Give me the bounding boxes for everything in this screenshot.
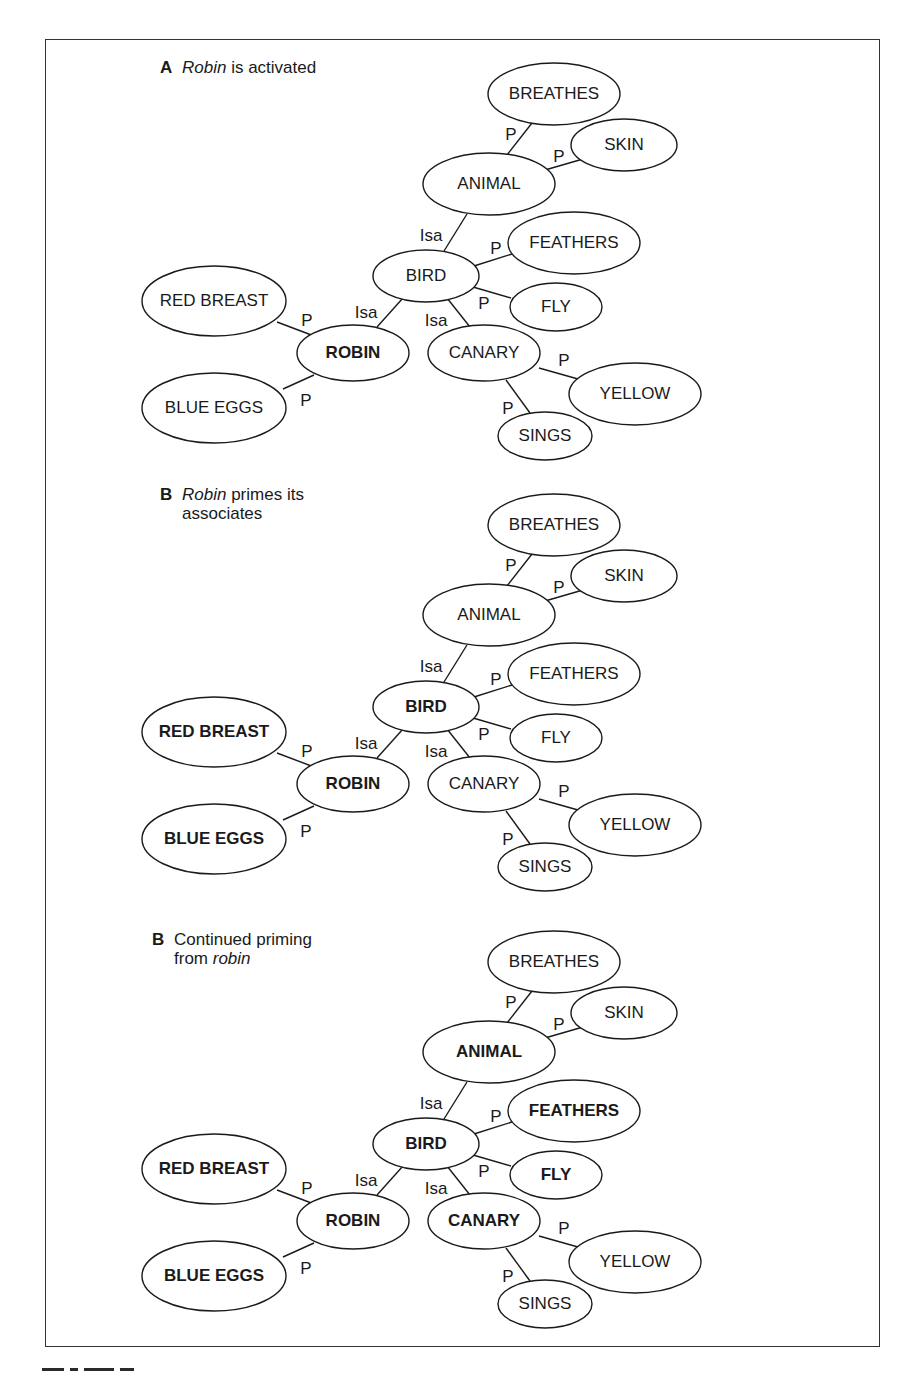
node-breathes: BREATHES bbox=[488, 931, 620, 993]
node-canary: CANARY bbox=[428, 1193, 540, 1249]
edge-label-isa: Isa bbox=[425, 742, 448, 761]
node-bird: BIRD bbox=[373, 250, 479, 302]
panel-title-text: primes its bbox=[226, 485, 303, 504]
node-label: BREATHES bbox=[509, 515, 599, 534]
edge-label-isa: Isa bbox=[355, 303, 378, 322]
edge-bird-canary bbox=[447, 729, 470, 758]
edge-label-property: P bbox=[301, 311, 312, 330]
node-label: FEATHERS bbox=[529, 233, 618, 252]
edge-label-property: P bbox=[301, 1179, 312, 1198]
node-label: ANIMAL bbox=[457, 605, 520, 624]
node-robin: ROBIN bbox=[297, 325, 409, 381]
edge-label-property: P bbox=[301, 742, 312, 761]
node-label: SINGS bbox=[519, 1294, 572, 1313]
edge-robin-bird bbox=[377, 729, 403, 758]
node-canary: CANARY bbox=[428, 756, 540, 812]
edge-label-property: P bbox=[478, 294, 489, 313]
node-red-breast: RED BREAST bbox=[142, 1134, 286, 1204]
node-label: BIRD bbox=[405, 697, 447, 716]
node-label: ANIMAL bbox=[457, 174, 520, 193]
node-label: SKIN bbox=[604, 1003, 644, 1022]
edge-label-property: P bbox=[490, 239, 501, 258]
node-animal: ANIMAL bbox=[423, 1021, 555, 1083]
edge-label-property: P bbox=[505, 556, 516, 575]
node-label: ROBIN bbox=[326, 343, 381, 362]
node-skin: SKIN bbox=[571, 119, 677, 171]
edge-label-property: P bbox=[478, 725, 489, 744]
node-label: YELLOW bbox=[600, 384, 671, 403]
node-label: RED BREAST bbox=[160, 291, 269, 310]
node-breathes: BREATHES bbox=[488, 494, 620, 556]
node-fly: FLY bbox=[510, 283, 602, 331]
node-yellow: YELLOW bbox=[569, 363, 701, 425]
edge-label-property: P bbox=[478, 1162, 489, 1181]
node-label: FLY bbox=[541, 728, 571, 747]
edge-label-property: P bbox=[558, 1219, 569, 1238]
edge-label-property: P bbox=[502, 399, 513, 418]
edge-bird-animal bbox=[444, 214, 467, 251]
node-label: RED BREAST bbox=[159, 1159, 270, 1178]
edge-robin-blue-eggs bbox=[283, 375, 314, 389]
edge-label-isa: Isa bbox=[420, 1094, 443, 1113]
edge-label-property: P bbox=[502, 1267, 513, 1286]
node-blue-eggs: BLUE EGGS bbox=[142, 1241, 286, 1311]
node-red-breast: RED BREAST bbox=[142, 697, 286, 767]
node-label: RED BREAST bbox=[159, 722, 270, 741]
edge-label-property: P bbox=[553, 1015, 564, 1034]
edge-label-property: P bbox=[502, 830, 513, 849]
node-robin: ROBIN bbox=[297, 756, 409, 812]
node-label: ANIMAL bbox=[456, 1042, 522, 1061]
panel-b1: PPIsaPPIsaIsaPPPPBREATHESSKINANIMALFEATH… bbox=[142, 494, 701, 891]
panel-letter: B bbox=[160, 485, 182, 504]
edge-bird-canary bbox=[447, 298, 470, 327]
edge-label-property: P bbox=[300, 822, 311, 841]
edge-label-isa: Isa bbox=[425, 1179, 448, 1198]
edge-robin-blue-eggs bbox=[283, 806, 314, 820]
node-sings: SINGS bbox=[498, 1280, 592, 1328]
node-label: YELLOW bbox=[600, 1252, 671, 1271]
panel-title-text: is activated bbox=[226, 58, 316, 77]
node-bird: BIRD bbox=[373, 1118, 479, 1170]
panel-letter: A bbox=[160, 58, 182, 77]
edge-label-property: P bbox=[553, 578, 564, 597]
edge-robin-bird bbox=[377, 1166, 403, 1195]
node-animal: ANIMAL bbox=[423, 153, 555, 215]
edge-label-property: P bbox=[505, 993, 516, 1012]
edge-bird-canary bbox=[447, 1166, 470, 1195]
edge-label-property: P bbox=[505, 125, 516, 144]
edge-label-isa: Isa bbox=[420, 657, 443, 676]
node-label: FEATHERS bbox=[529, 664, 618, 683]
node-blue-eggs: BLUE EGGS bbox=[142, 373, 286, 443]
node-label: BLUE EGGS bbox=[164, 1266, 264, 1285]
node-yellow: YELLOW bbox=[569, 794, 701, 856]
node-label: BREATHES bbox=[509, 952, 599, 971]
node-label: FLY bbox=[541, 1165, 572, 1184]
edge-label-isa: Isa bbox=[355, 734, 378, 753]
node-skin: SKIN bbox=[571, 550, 677, 602]
panel-title-text: Continued priming bbox=[174, 930, 312, 949]
edge-bird-animal bbox=[444, 645, 467, 682]
panel-title-text: associates bbox=[182, 504, 262, 523]
panel-title-text: robin bbox=[213, 949, 251, 968]
node-label: SINGS bbox=[519, 857, 572, 876]
edge-label-property: P bbox=[553, 147, 564, 166]
node-blue-eggs: BLUE EGGS bbox=[142, 804, 286, 874]
node-label: BLUE EGGS bbox=[165, 398, 263, 417]
edge-label-isa: Isa bbox=[420, 226, 443, 245]
edge-bird-animal bbox=[444, 1082, 467, 1119]
edge-robin-blue-eggs bbox=[283, 1243, 314, 1257]
edge-label-isa: Isa bbox=[425, 311, 448, 330]
panel-title-a: ARobin is activated bbox=[160, 58, 316, 77]
panel-title-b1: BRobin primes itsassociates bbox=[160, 485, 304, 523]
edge-robin-bird bbox=[377, 298, 403, 327]
node-label: ROBIN bbox=[326, 774, 381, 793]
edge-label-property: P bbox=[490, 670, 501, 689]
node-bird: BIRD bbox=[373, 681, 479, 733]
panel-a: PPIsaPPIsaIsaPPPPBREATHESSKINANIMALFEATH… bbox=[142, 63, 701, 460]
edge-label-property: P bbox=[490, 1107, 501, 1126]
panel-title-b2: BContinued primingfrom robin bbox=[152, 930, 312, 968]
node-label: FLY bbox=[541, 297, 571, 316]
node-skin: SKIN bbox=[571, 987, 677, 1039]
panel-title-text: from bbox=[174, 949, 213, 968]
node-label: CANARY bbox=[449, 343, 520, 362]
